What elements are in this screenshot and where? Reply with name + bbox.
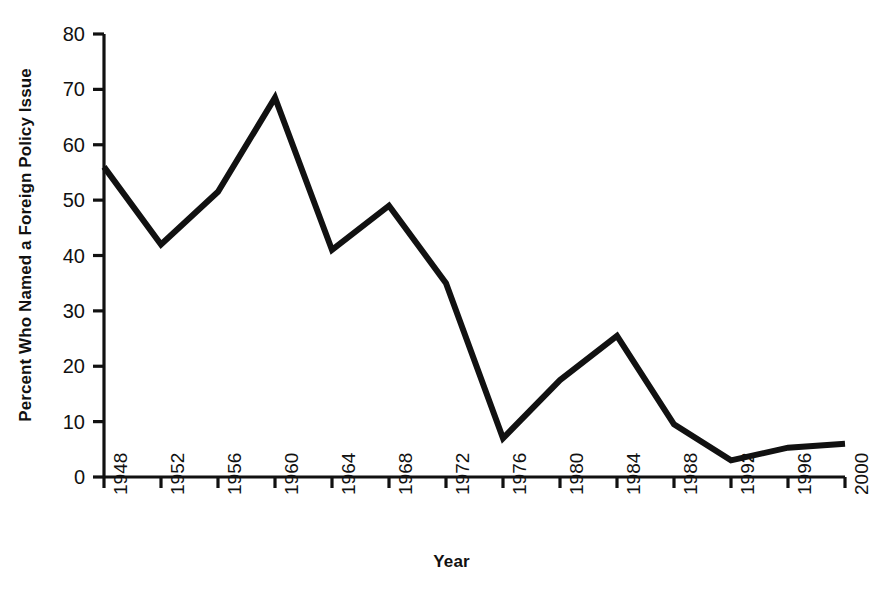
- x-axis-tick-label: 1968: [396, 453, 415, 495]
- x-axis-tick-label: 1996: [795, 453, 814, 495]
- x-axis-tick-label: 1948: [111, 453, 130, 495]
- x-axis-tick-label: 1988: [681, 453, 700, 495]
- y-axis-tick-label: 10: [45, 412, 85, 432]
- x-axis-tick-label: 1956: [225, 453, 244, 495]
- x-axis-tick-label: 2000: [852, 453, 871, 495]
- y-axis-tick-label: 80: [45, 24, 85, 44]
- x-axis-tick-label: 1976: [510, 453, 529, 495]
- data-line-series: [104, 98, 845, 461]
- x-axis-title: Year: [433, 552, 469, 572]
- x-axis-tick-label: 1992: [738, 453, 757, 495]
- x-axis-title-container: Year: [0, 552, 871, 572]
- x-axis-tick-label: 1984: [624, 453, 643, 495]
- x-axis-tick-label: 1980: [567, 453, 586, 495]
- y-axis-tick-label: 40: [45, 246, 85, 266]
- x-axis-tick-label: 1964: [339, 453, 358, 495]
- x-axis-tick-label: 1972: [453, 453, 472, 495]
- x-axis-tick-label: 1952: [168, 453, 187, 495]
- y-axis-tick-label: 30: [45, 301, 85, 321]
- x-axis-tick-label: 1960: [282, 453, 301, 495]
- x-axis-ticks: [104, 477, 845, 488]
- plot-area: [0, 0, 871, 594]
- y-axis-tick-label: 0: [45, 467, 85, 487]
- data-series-group: [104, 98, 845, 461]
- y-axis-ticks: [93, 34, 104, 477]
- y-axis-tick-label: 50: [45, 190, 85, 210]
- y-axis-tick-label: 70: [45, 79, 85, 99]
- y-axis-tick-label: 20: [45, 356, 85, 376]
- line-chart: Percent Who Named a Foreign Policy Issue…: [0, 0, 871, 594]
- y-axis-tick-label: 60: [45, 135, 85, 155]
- axis-lines: [104, 34, 845, 477]
